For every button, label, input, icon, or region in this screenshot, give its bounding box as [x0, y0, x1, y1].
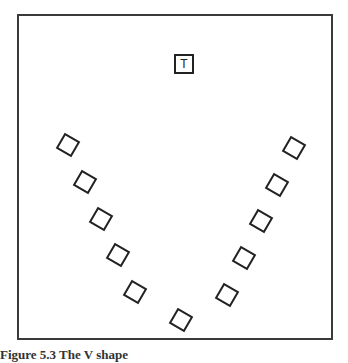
figure-caption: Figure 5.3 The V shape — [0, 347, 128, 363]
teacher-desk: T — [174, 54, 194, 74]
teacher-label: T — [180, 57, 187, 71]
